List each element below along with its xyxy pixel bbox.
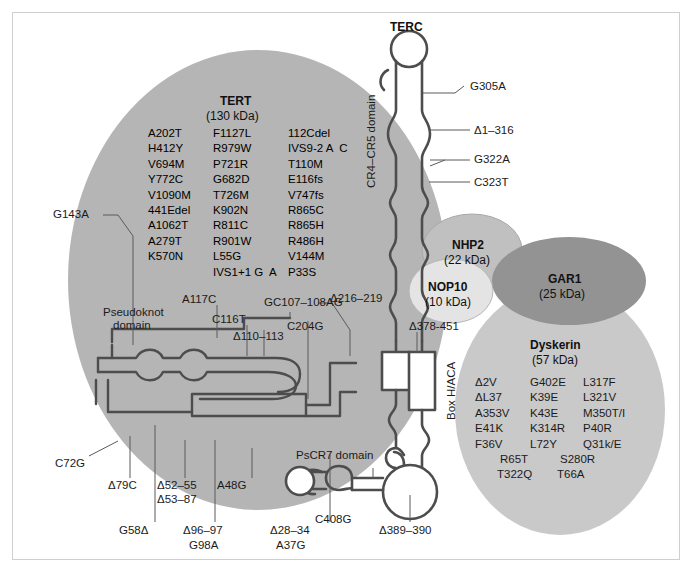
mutation-entry: M350T/I: [583, 406, 625, 421]
mutation-entry: H412Y: [148, 141, 191, 156]
annotation-d389-390: Δ389–390: [379, 524, 431, 537]
mutation-entry: K902N: [213, 203, 277, 218]
mutation-entry: 441Edel: [148, 203, 191, 218]
mutation-entry: A353V: [475, 406, 510, 421]
annotation-g143a: G143A: [53, 208, 89, 221]
annotation-a48g: A48G: [217, 479, 246, 492]
mutation-entry: IVS9-2 A C: [288, 141, 347, 156]
gar1-mass: (25 kDa): [539, 287, 585, 301]
dyskerin-mutations-col2: G402EK39EK43EK314RL72Y: [530, 375, 566, 452]
annotation-d378-451: Δ378-451: [409, 320, 459, 333]
tert-mutations-col3: 112CdelIVS9-2 A CT110ME116fsV747fsR865CR…: [288, 126, 347, 280]
cr4-cr5-domain-label: CR4–CR5 domain: [365, 95, 377, 188]
annotation-a117c: A117C: [182, 293, 216, 306]
tert-title: TERT: [220, 94, 251, 108]
tert-mutations-col1: A202TH412YV694MY772CV1090M441EdelA1062TA…: [148, 126, 191, 265]
dyskerin-mutations-col1: Δ2VΔL37A353VE41KF36V: [475, 375, 510, 452]
annotation-g305a: G305A: [470, 80, 506, 93]
mutation-entry: R979W: [213, 141, 277, 156]
dyskerin-mutation-t66a: T66A: [557, 467, 585, 482]
nhp2-title: NHP2: [452, 238, 484, 252]
dyskerin-mutations-col3: L317FL321VM350T/IP40RQ31k/E: [583, 375, 625, 452]
annotation-c323t: C323T: [474, 176, 509, 189]
mutation-entry: Q31k/E: [583, 437, 625, 452]
annotation-a37g: A37G: [276, 539, 305, 552]
annotation-c72g: C72G: [55, 457, 85, 470]
mutation-entry: K43E: [530, 406, 566, 421]
annotation-d216-219: Δ216–219: [330, 292, 382, 305]
diagram-graphics: [0, 0, 694, 575]
mutation-entry: 112Cdel: [288, 126, 347, 141]
mutation-entry: A279T: [148, 234, 191, 249]
box-haca-label: Box H/ACA: [445, 362, 457, 420]
tert-mass: (130 kDa): [206, 109, 259, 123]
mutation-entry: P721R: [213, 157, 277, 172]
mutation-entry: R865H: [288, 218, 347, 233]
annotation-c116t: C116T: [212, 313, 246, 326]
mutation-entry: F1127L: [213, 126, 277, 141]
annotation-g98a: G98A: [189, 539, 218, 552]
mutation-entry: V747fs: [288, 188, 347, 203]
annotation-d1-316: Δ1–316: [474, 124, 514, 137]
mutation-entry: A1062T: [148, 218, 191, 233]
pseudoknot-domain-label-line1: Pseudoknot: [103, 306, 164, 319]
gar1-title: GAR1: [548, 272, 581, 286]
mutation-entry: L321V: [583, 390, 625, 405]
mutation-entry: V694M: [148, 157, 191, 172]
annotation-g58d: G58Δ: [119, 524, 148, 537]
pscr7-domain-label: PsCR7 domain: [296, 449, 373, 462]
mutation-entry: IVS1+1 G A: [213, 265, 277, 280]
mutation-entry: T726M: [213, 188, 277, 203]
nop10-title: NOP10: [428, 280, 467, 294]
nhp2-mass: (22 kDa): [444, 253, 490, 267]
mutation-entry: G682D: [213, 172, 277, 187]
pseudoknot-domain-label-line2: domain: [113, 319, 151, 332]
terc-label: TERC: [390, 20, 423, 34]
dyskerin-mutation-t322q: T322Q: [497, 467, 532, 482]
mutation-entry: ΔL37: [475, 390, 510, 405]
mutation-entry: R811C: [213, 218, 277, 233]
mutation-entry: L55G: [213, 249, 277, 264]
mutation-entry: E41K: [475, 421, 510, 436]
mutation-entry: K314R: [530, 421, 566, 436]
tert-mutations-col2: F1127LR979WP721RG682DT726MK902NR811CR901…: [213, 126, 277, 280]
mutation-entry: R865C: [288, 203, 347, 218]
mutation-entry: Δ2V: [475, 375, 510, 390]
annotation-d28-34: Δ28–34: [270, 524, 310, 537]
annotation-d52-55: Δ52–55: [157, 479, 197, 492]
mutation-entry: F36V: [475, 437, 510, 452]
annotation-d53-87: Δ53–87: [157, 493, 197, 506]
mutation-entry: G402E: [530, 375, 566, 390]
mutation-entry: K570N: [148, 249, 191, 264]
mutation-entry: P40R: [583, 421, 625, 436]
dyskerin-mass: (57 kDa): [532, 353, 578, 367]
mutation-entry: Y772C: [148, 172, 191, 187]
annotation-d96-97: Δ96–97: [183, 524, 223, 537]
mutation-entry: K39E: [530, 390, 566, 405]
mutation-entry: V1090M: [148, 188, 191, 203]
mutation-entry: L317F: [583, 375, 625, 390]
annotation-c408g: C408G: [315, 513, 351, 526]
annotation-g322a: G322A: [474, 153, 510, 166]
mutation-entry: E116fs: [288, 172, 347, 187]
mutation-entry: T110M: [288, 157, 347, 172]
annotation-d110-113: Δ110–113: [233, 330, 284, 343]
annotation-c204g: C204G: [287, 320, 323, 333]
mutation-entry: R486H: [288, 234, 347, 249]
nop10-mass: (10 kDa): [425, 295, 471, 309]
mutation-entry: R901W: [213, 234, 277, 249]
dyskerin-mutation-r65t: R65T: [500, 452, 528, 467]
mutation-entry: L72Y: [530, 437, 566, 452]
mutation-entry: V144M: [288, 249, 347, 264]
figure-canvas: TERC CR4–CR5 domain Box H/ACA Pseudoknot…: [0, 0, 694, 575]
mutation-entry: A202T: [148, 126, 191, 141]
annotation-d79c: Δ79C: [108, 479, 137, 492]
mutation-entry: P33S: [288, 265, 347, 280]
dyskerin-title: Dyskerin: [530, 338, 581, 352]
dyskerin-mutation-s280r: S280R: [560, 452, 595, 467]
